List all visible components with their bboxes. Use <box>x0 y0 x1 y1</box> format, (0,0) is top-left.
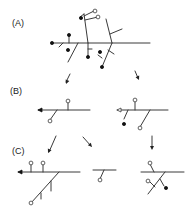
transition-arrows <box>48 76 154 153</box>
filled-node-icon <box>164 186 167 189</box>
open-node-icon <box>29 161 33 165</box>
arrow-end-icon <box>38 108 42 112</box>
open-node-icon <box>48 119 52 123</box>
branch-line <box>102 43 112 67</box>
filled-node-icon <box>122 122 125 125</box>
branch-lines <box>18 11 184 203</box>
branch-line <box>59 43 63 47</box>
panel-label-c: (C) <box>12 146 25 156</box>
branch-line <box>84 14 88 43</box>
arrow-end-icon <box>117 108 121 112</box>
branch-line <box>140 110 150 127</box>
branch-line <box>98 55 102 58</box>
open-node-icon <box>96 15 100 19</box>
open-node-icon <box>148 161 152 165</box>
arrow-end-icon <box>18 170 22 174</box>
open-node-icon <box>98 178 102 182</box>
branch-line <box>108 50 114 54</box>
arrow-ends <box>18 108 121 174</box>
tree-diagram <box>0 0 194 212</box>
branch-line <box>84 11 94 16</box>
branch-line <box>150 182 155 187</box>
panel-label-b: (B) <box>10 86 22 96</box>
panel-label-a: (A) <box>12 18 24 28</box>
open-node-icon <box>66 99 70 103</box>
branch-line <box>50 110 57 120</box>
open-node-icon <box>93 9 97 13</box>
open-node-icon <box>146 179 150 183</box>
open-node-icon <box>29 201 33 205</box>
arrow-head-icon <box>150 146 154 150</box>
filled-node-icon <box>79 16 82 19</box>
filled-node-icon <box>66 48 69 51</box>
open-node-icon <box>133 98 137 102</box>
branch-line <box>110 29 122 34</box>
filled-node-icon <box>50 41 53 44</box>
branch-line <box>100 170 104 179</box>
filled-node-icon <box>98 50 101 53</box>
open-node-icon <box>41 161 45 165</box>
filled-node-icon <box>86 55 89 58</box>
open-node-icon <box>138 126 142 130</box>
branch-line <box>31 172 59 203</box>
branch-line <box>124 110 128 119</box>
open-node-markers <box>29 9 152 205</box>
branch-line <box>160 179 164 186</box>
branch-line <box>106 19 112 43</box>
branch-line <box>68 43 78 62</box>
filled-node-icon <box>67 33 70 36</box>
filled-node-icon <box>100 65 103 68</box>
arrow-head-icon <box>66 80 70 84</box>
